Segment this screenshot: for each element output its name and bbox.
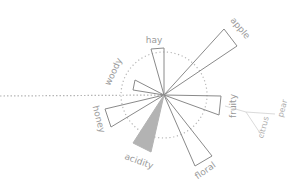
wedge-hay [151,48,164,95]
label-woody: woody [103,56,125,87]
label-pear: pear [276,98,290,119]
label-hay: hay [146,35,163,45]
wedge-woody [133,80,164,95]
branch-line-pear [246,112,275,114]
baseline-dotted-line [0,95,164,96]
label-acidity: acidity [123,151,155,171]
label-citrus: citrus [256,115,270,139]
wedge-apple [164,29,237,95]
flavor-diagram: citruspearhayapplewoodyfruityhoneyacidit… [0,0,303,191]
label-fruity: fruity [228,93,238,118]
label-apple: apple [228,15,252,41]
